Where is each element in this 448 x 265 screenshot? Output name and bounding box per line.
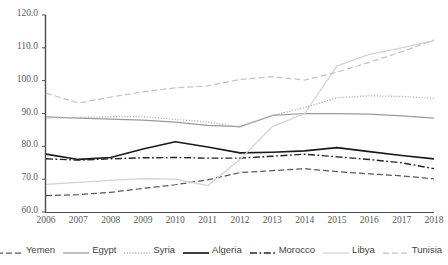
legend-label: Egypt <box>92 244 116 255</box>
legend-entry-tunisia[interactable]: Tunisia <box>383 244 442 255</box>
series-line-libya <box>46 41 434 186</box>
legend-swatch-egypt <box>63 244 89 254</box>
legend-swatch-yemen <box>0 244 23 254</box>
series-line-morocco <box>46 154 434 168</box>
series-line-algeria <box>46 142 434 160</box>
legend-swatch-tunisia <box>383 244 409 254</box>
legend-label: Libya <box>352 244 375 255</box>
legend-label: Morocco <box>279 244 315 255</box>
legend-swatch-algeria <box>183 244 209 254</box>
legend-label: Algeria <box>212 244 242 255</box>
axis-lines <box>45 15 434 213</box>
legend-swatch-libya <box>323 244 349 254</box>
legend-label: Yemen <box>26 244 55 255</box>
chart-legend: YemenEgyptSyriaAlgeriaMoroccoLibyaTunisi… <box>0 238 439 260</box>
legend-entry-libya[interactable]: Libya <box>323 244 375 255</box>
legend-swatch-syria <box>124 244 150 254</box>
legend-label: Syria <box>153 244 175 255</box>
series-line-tunisia <box>46 40 434 103</box>
data-series-group <box>46 40 434 196</box>
series-line-egypt <box>46 114 434 127</box>
legend-entry-yemen[interactable]: Yemen <box>0 244 55 255</box>
legend-label: Tunisia <box>412 244 442 255</box>
legend-entry-egypt[interactable]: Egypt <box>63 244 116 255</box>
legend-entry-morocco[interactable]: Morocco <box>250 244 315 255</box>
series-line-syria <box>46 96 434 128</box>
legend-entry-algeria[interactable]: Algeria <box>183 244 242 255</box>
series-line-yemen <box>46 169 434 196</box>
legend-swatch-morocco <box>250 244 276 254</box>
legend-entry-syria[interactable]: Syria <box>124 244 175 255</box>
